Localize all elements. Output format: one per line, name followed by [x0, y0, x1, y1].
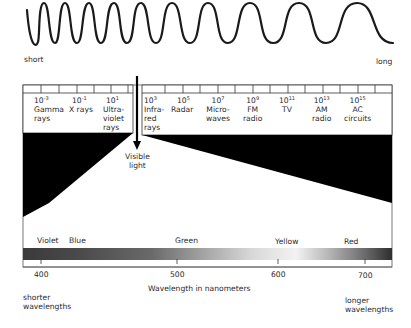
wavelength-exponent: 109: [243, 94, 262, 105]
band-name: AC: [344, 105, 371, 114]
band-name: waves: [206, 114, 230, 123]
band-fm-radio: 109 FM radio: [243, 94, 262, 123]
band-name: Micro-: [206, 105, 230, 114]
tick-400: 400: [34, 270, 49, 279]
wavelength-exponent: 1011: [279, 94, 295, 105]
color-red: Red: [344, 237, 358, 246]
wave-curve: [27, 3, 393, 45]
band-name: circuits: [344, 114, 371, 123]
band-name: rays: [103, 123, 124, 132]
tick-600: 600: [271, 270, 286, 279]
band-am-radio: 1013 AM radio: [312, 94, 331, 123]
band-gamma-rays: 10-3 Gamma rays: [34, 94, 64, 123]
visible-light-label: Visible light: [125, 152, 150, 170]
note-line: wavelengths: [23, 302, 71, 311]
color-violet: Violet: [37, 236, 59, 245]
tick-500: 500: [170, 270, 185, 279]
wavelength-exponent: 10-1: [69, 94, 93, 105]
band-name: AM: [312, 105, 331, 114]
longer-wavelengths-note: longer wavelengths: [345, 296, 393, 314]
tick-700: 700: [358, 271, 373, 280]
band-name: Ultra-: [103, 105, 124, 114]
note-line: longer: [345, 296, 393, 305]
band-name: radio: [312, 114, 331, 123]
band-name: radio: [243, 114, 262, 123]
band-name: violet: [103, 114, 124, 123]
note-line: wavelengths: [345, 305, 393, 314]
band-name: X rays: [69, 105, 93, 114]
arrow-head-icon: [133, 141, 141, 150]
band-x-rays: 10-1 X rays: [69, 94, 93, 114]
band-ac-circuits: 1015 AC circuits: [344, 94, 371, 123]
band-name: Radar: [171, 105, 193, 114]
color-green: Green: [175, 236, 198, 245]
band-name: rays: [34, 114, 64, 123]
wavelength-exponent: 1015: [344, 94, 371, 105]
short-wave-label: short: [24, 55, 44, 64]
wavelength-exponent: 103: [144, 94, 164, 105]
note-line: shorter: [23, 293, 71, 302]
visible-light-line: Visible: [125, 152, 150, 161]
long-wave-label: long: [376, 57, 392, 66]
band-name: rays: [144, 123, 164, 132]
wavelength-exponent: 10-3: [34, 94, 64, 105]
band-microwaves: 107 Micro- waves: [206, 94, 230, 123]
shorter-wavelengths-note: shorter wavelengths: [23, 293, 71, 311]
color-yellow: Yellow: [275, 237, 298, 246]
band-name: Infra-: [144, 105, 164, 114]
wavelength-exponent: 101: [103, 94, 124, 105]
band-name: TV: [279, 105, 295, 114]
right-expansion-wedge: [142, 135, 392, 203]
band-radar: 105 Radar: [171, 94, 193, 114]
band-ultraviolet-rays: 101 Ultra- violet rays: [103, 94, 124, 132]
wavelength-exponent: 1013: [312, 94, 331, 105]
visible-light-line: light: [125, 161, 150, 170]
band-name: Gamma: [34, 105, 64, 114]
wavelength-exponent: 105: [171, 94, 193, 105]
band-tv: 1011 TV: [279, 94, 295, 114]
axis-label: Wavelength in nanometers: [148, 284, 251, 293]
diagram-graphics: [0, 0, 411, 328]
left-expansion-wedge: [23, 133, 133, 217]
band-name: red: [144, 114, 164, 123]
color-blue: Blue: [69, 236, 86, 245]
band-infrared-rays: 103 Infra- red rays: [144, 94, 164, 132]
band-name: FM: [243, 105, 262, 114]
wavelength-exponent: 107: [206, 94, 230, 105]
visible-spectrum-bar: [23, 248, 392, 260]
